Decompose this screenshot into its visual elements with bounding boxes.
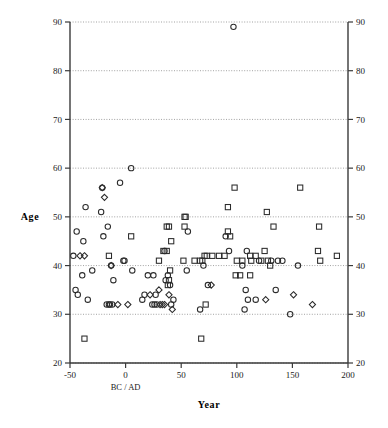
data-point-square-33 bbox=[234, 258, 239, 263]
data-point-square-22 bbox=[222, 253, 227, 258]
data-point-square-2 bbox=[225, 205, 230, 210]
data-point-circle-27 bbox=[80, 273, 85, 278]
data-point-square-13 bbox=[129, 234, 134, 239]
data-points-group bbox=[71, 24, 340, 341]
data-point-square-47 bbox=[82, 336, 87, 341]
data-point-diamond-6 bbox=[125, 301, 131, 307]
x-tick-label-50: 50 bbox=[177, 370, 187, 380]
data-point-square-48 bbox=[199, 336, 204, 341]
data-point-square-0 bbox=[232, 185, 237, 190]
data-point-diamond-16 bbox=[263, 297, 269, 303]
data-point-square-46 bbox=[203, 302, 208, 307]
data-point-circle-25 bbox=[145, 273, 150, 278]
data-point-square-30 bbox=[192, 258, 197, 263]
data-point-circle-52 bbox=[287, 312, 292, 317]
data-point-circle-21 bbox=[295, 263, 300, 268]
scatter-chart: 20203030404050506060707080809090-5005010… bbox=[0, 0, 388, 428]
data-point-diamond-3 bbox=[81, 253, 87, 259]
data-point-square-21 bbox=[216, 253, 221, 258]
y-tick-label-right-70: 70 bbox=[356, 115, 366, 125]
x-axis-title: Year bbox=[198, 399, 220, 410]
data-point-circle-31 bbox=[273, 287, 278, 292]
data-point-square-15 bbox=[315, 248, 320, 253]
data-point-circle-49 bbox=[197, 307, 202, 312]
data-point-diamond-9 bbox=[159, 301, 165, 307]
y-tick-label-left-70: 70 bbox=[53, 115, 63, 125]
data-point-circle-22 bbox=[90, 268, 95, 273]
data-point-circle-32 bbox=[243, 287, 248, 292]
y-axis-title: Age bbox=[21, 211, 39, 222]
x-tick-label-200: 200 bbox=[341, 370, 355, 380]
data-point-circle-39 bbox=[85, 297, 90, 302]
data-point-circle-10 bbox=[101, 234, 106, 239]
data-point-square-20 bbox=[210, 253, 215, 258]
chart-canvas: 20203030404050506060707080809090-5005010… bbox=[0, 0, 388, 428]
y-tick-label-left-60: 60 bbox=[53, 163, 63, 173]
data-point-square-8 bbox=[182, 224, 187, 229]
data-point-square-3 bbox=[264, 209, 269, 214]
data-point-diamond-14 bbox=[290, 292, 296, 298]
x-tick-label-150: 150 bbox=[286, 370, 300, 380]
y-tick-label-left-50: 50 bbox=[53, 212, 63, 222]
data-point-square-1 bbox=[298, 185, 303, 190]
data-point-circle-26 bbox=[151, 273, 156, 278]
x-tick-label--50: -50 bbox=[64, 370, 76, 380]
y-tick-label-right-30: 30 bbox=[356, 309, 366, 319]
data-point-circle-6 bbox=[105, 224, 110, 229]
data-point-circle-50 bbox=[242, 307, 247, 312]
data-point-diamond-7 bbox=[147, 292, 153, 298]
y-tick-label-right-40: 40 bbox=[356, 261, 366, 271]
data-point-circle-24 bbox=[184, 268, 189, 273]
data-point-circle-9 bbox=[81, 239, 86, 244]
data-point-square-39 bbox=[318, 258, 323, 263]
data-point-circle-2 bbox=[117, 180, 122, 185]
y-tick-label-right-50: 50 bbox=[356, 212, 366, 222]
x-tick-label-0: 0 bbox=[123, 370, 128, 380]
data-point-circle-5 bbox=[98, 209, 103, 214]
data-point-square-10 bbox=[316, 224, 321, 229]
data-point-square-29 bbox=[181, 258, 186, 263]
data-point-circle-38 bbox=[73, 287, 78, 292]
data-point-square-14 bbox=[169, 239, 174, 244]
data-point-diamond-13 bbox=[309, 301, 315, 307]
y-tick-label-right-20: 20 bbox=[356, 358, 366, 368]
y-tick-label-right-80: 80 bbox=[356, 66, 366, 76]
y-tick-label-right-60: 60 bbox=[356, 163, 366, 173]
data-point-circle-37 bbox=[245, 297, 250, 302]
y-tick-label-left-80: 80 bbox=[53, 66, 63, 76]
data-point-square-28 bbox=[156, 258, 161, 263]
data-point-square-9 bbox=[271, 224, 276, 229]
data-point-diamond-5 bbox=[115, 301, 121, 307]
data-point-circle-7 bbox=[74, 229, 79, 234]
data-point-diamond-10 bbox=[161, 301, 167, 307]
data-point-diamond-15 bbox=[166, 292, 172, 298]
y-tick-label-left-90: 90 bbox=[53, 17, 63, 27]
x-tick-label-100: 100 bbox=[230, 370, 244, 380]
y-tick-label-left-40: 40 bbox=[53, 261, 63, 271]
data-point-circle-48 bbox=[171, 297, 176, 302]
data-point-circle-11 bbox=[71, 253, 76, 258]
y-tick-label-left-30: 30 bbox=[53, 309, 63, 319]
data-point-square-43 bbox=[248, 273, 253, 278]
data-point-circle-28 bbox=[111, 277, 116, 282]
data-point-circle-0 bbox=[231, 24, 236, 29]
y-tick-label-left-20: 20 bbox=[53, 358, 63, 368]
data-point-square-27 bbox=[334, 253, 339, 258]
data-point-circle-4 bbox=[83, 204, 88, 209]
data-point-circle-51 bbox=[253, 297, 258, 302]
annotation-bc-ad: BC / AD bbox=[111, 382, 141, 392]
y-tick-label-right-90: 90 bbox=[356, 17, 366, 27]
data-point-circle-23 bbox=[130, 268, 135, 273]
data-point-square-17 bbox=[106, 253, 111, 258]
data-point-square-16 bbox=[262, 248, 267, 253]
data-point-diamond-1 bbox=[101, 194, 107, 200]
data-point-diamond-2 bbox=[77, 253, 83, 259]
